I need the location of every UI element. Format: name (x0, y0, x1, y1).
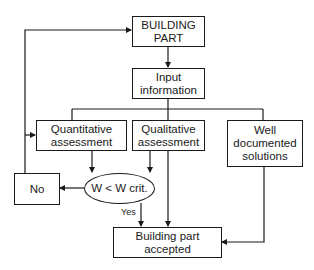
quantitative-assessment-box: Quantitative assessment (36, 120, 127, 151)
building-part-accepted-box: Building part accepted (113, 227, 222, 258)
qualitative-assessment-box: Qualitative assessment (132, 120, 205, 151)
decision-ellipse: W < W crit. (84, 173, 155, 204)
well-documented-solutions-box: Well documented solutions (227, 120, 303, 167)
input-information-box: Input information (132, 68, 205, 99)
no-box: No (14, 173, 60, 205)
building-part-box: BUILDING PART (132, 16, 205, 47)
yes-label: Yes (121, 207, 136, 217)
